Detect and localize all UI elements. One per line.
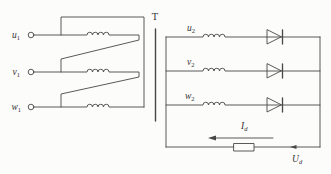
diagram-background	[0, 0, 331, 174]
transformer-label: T	[152, 11, 159, 22]
load-resistor	[234, 144, 254, 152]
terminal-v1	[28, 69, 34, 75]
circuit-diagram: T u1 v1 w1 u2 v2 w2 Id Ud	[0, 0, 331, 174]
schematic-canvas: T u1 v1 w1 u2 v2 w2 Id Ud	[0, 0, 331, 174]
terminal-u1	[28, 32, 34, 38]
terminal-w1	[28, 104, 34, 110]
